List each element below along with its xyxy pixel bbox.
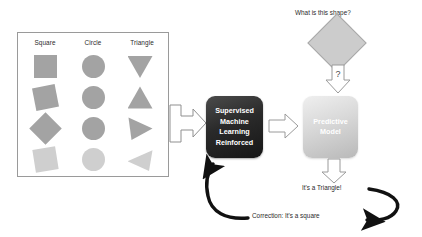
right-arrow-icon [268, 112, 300, 140]
training-box-line: Machine [220, 117, 249, 128]
shape-cell [23, 83, 67, 112]
triangle-shape-icon [128, 117, 153, 140]
column-header-square: Square [24, 39, 66, 46]
question-mark-glyph: ? [335, 69, 340, 79]
triangle-shape-icon [128, 86, 153, 109]
predictive-model-box[interactable]: Predictive Model [303, 96, 358, 158]
predictive-box-line: Model [320, 127, 341, 138]
shape-cell [71, 52, 115, 81]
shape-cell [71, 114, 115, 143]
training-box-line: Supervised [215, 106, 254, 117]
column-header-triangle: Triangle [119, 39, 165, 46]
diagram-canvas: Square Circle Triangle [0, 0, 422, 237]
circle-shape-icon [82, 86, 105, 109]
circle-shape-icon [82, 55, 105, 78]
shape-cell [118, 145, 162, 174]
correction-feedback-label: Correction: It's a square [252, 212, 320, 219]
training-box-line: Learning [219, 127, 249, 138]
prediction-output-label: It's a Triangle! [302, 184, 342, 191]
shape-cell [71, 145, 115, 174]
square-shape-icon [32, 84, 59, 111]
shape-cell [71, 83, 115, 112]
shape-cell [23, 52, 67, 81]
square-shape-icon [29, 112, 62, 145]
diamond-shape-icon [316, 22, 358, 64]
square-shape-icon [32, 146, 58, 172]
shape-cell [23, 114, 67, 143]
shape-cell [118, 83, 162, 112]
predictive-box-line: Predictive [313, 117, 347, 128]
circle-shape-icon [82, 117, 105, 140]
training-data-panel: Square Circle Triangle [17, 32, 169, 177]
right-arrow-icon [169, 104, 209, 144]
shape-cell [118, 114, 162, 143]
training-box-line: Reinforced [216, 138, 254, 149]
shape-cell [118, 52, 162, 81]
square-shape-icon [34, 55, 57, 78]
shape-cell [23, 145, 67, 174]
circle-shape-icon [82, 148, 105, 171]
query-question-label: What is this shape? [295, 9, 351, 16]
training-stage-box[interactable]: Supervised Machine Learning Reinforced [206, 96, 263, 158]
triangle-shape-icon [128, 148, 153, 171]
triangle-shape-icon [128, 55, 153, 78]
down-arrow-icon [320, 158, 348, 184]
column-header-circle: Circle [72, 39, 114, 46]
down-arrow-question-icon: ? [325, 64, 351, 94]
